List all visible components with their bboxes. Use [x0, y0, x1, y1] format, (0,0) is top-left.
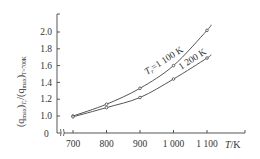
- y-tick-label: 1.6: [40, 61, 52, 71]
- data-point-marker: [172, 78, 175, 81]
- y-tick-label: 2.0: [40, 27, 52, 37]
- data-point-marker: [105, 106, 108, 109]
- y-tick-label: 1.0: [40, 111, 52, 121]
- y-tick-label: 1.8: [40, 44, 52, 54]
- x-tick-label: 700: [66, 139, 81, 149]
- y-axis-title: (qmax)Tr/(qmax)T=700K: [15, 56, 28, 127]
- data-point-marker: [172, 64, 175, 67]
- series-lines: [72, 25, 211, 118]
- y-tick-label: 1.4: [40, 78, 52, 88]
- y-tick-label: 1.2: [40, 94, 52, 104]
- x-tick-label: 900: [133, 139, 148, 149]
- y-origin-label: 0: [44, 129, 49, 139]
- data-point-marker: [139, 96, 142, 99]
- x-tick-label: 1 000: [163, 139, 185, 149]
- data-point-marker: [139, 87, 142, 90]
- x-tick-label: 1 100: [196, 139, 218, 149]
- x-axis: [57, 129, 245, 136]
- data-point-marker: [72, 116, 75, 119]
- x-axis-title: T/K: [225, 139, 241, 150]
- axis-break-icon: [61, 129, 62, 136]
- series-line-1100K: [73, 25, 211, 116]
- data-point-marker: [105, 103, 108, 106]
- x-tick-label: 800: [99, 139, 114, 149]
- data-point-marker: [206, 29, 209, 32]
- data-point-marker: [206, 57, 209, 60]
- chart: 1.01.21.41.61.82.0 7008009001 0001 100 0…: [0, 0, 260, 159]
